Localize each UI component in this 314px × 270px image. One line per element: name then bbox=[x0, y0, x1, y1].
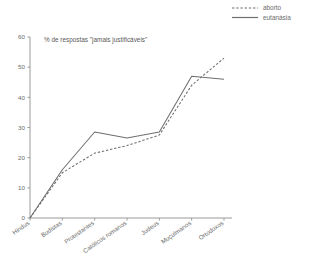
legend-label-eutansia: eutanásia bbox=[263, 14, 291, 21]
y-tick-label: 40 bbox=[18, 94, 25, 101]
x-tick-label: Ortodoxos bbox=[197, 219, 224, 241]
x-tick-label-group: Protestantes bbox=[63, 219, 95, 245]
series-line-eutansia bbox=[30, 76, 224, 218]
y-tick-label: 60 bbox=[18, 33, 25, 40]
y-tick-label: 10 bbox=[18, 184, 25, 191]
plot-title: % de respostas "jamais justificáveis" bbox=[44, 36, 147, 44]
x-tick-label: Judeus bbox=[140, 219, 160, 236]
x-tick-label-group: Hindus bbox=[11, 219, 31, 236]
x-tick-label-group: Budistas bbox=[39, 219, 62, 238]
x-tick-label-group: Muçulmanos bbox=[159, 219, 192, 245]
y-tick-label: 50 bbox=[18, 63, 25, 70]
chart-container: 0102030405060HindusBudistasProtestantesC… bbox=[0, 0, 314, 270]
x-tick-label-group: Judeus bbox=[140, 219, 160, 236]
legend-label-aborto: aborto bbox=[263, 4, 282, 11]
y-tick-label: 30 bbox=[18, 124, 25, 131]
line-chart: 0102030405060HindusBudistasProtestantesC… bbox=[0, 0, 314, 270]
y-tick-label: 20 bbox=[18, 154, 25, 161]
x-tick-label-group: Ortodoxos bbox=[197, 219, 224, 241]
x-tick-label: Protestantes bbox=[63, 219, 95, 245]
x-tick-label: Budistas bbox=[39, 219, 62, 238]
x-tick-label: Muçulmanos bbox=[159, 219, 192, 245]
x-tick-label: Hindus bbox=[11, 219, 31, 236]
